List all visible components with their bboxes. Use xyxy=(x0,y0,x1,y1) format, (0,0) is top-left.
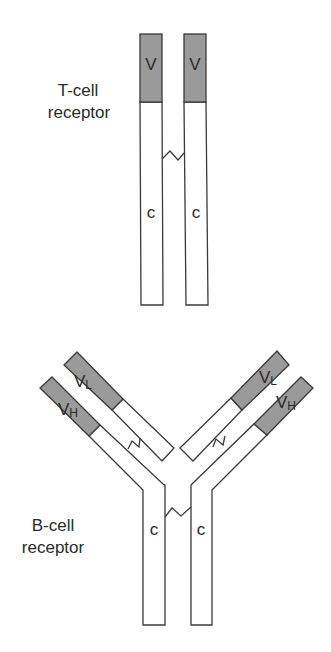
tcell-chain-left: V c xyxy=(140,34,163,305)
bcell-heavy-chain-right: VH c xyxy=(191,377,313,625)
constant-label: c xyxy=(150,520,159,539)
disulfide-bond-left xyxy=(128,438,140,449)
bcell-label-line2: receptor xyxy=(22,538,85,557)
bcell-label-line1: B-cell xyxy=(32,516,75,535)
tcell-label-line1: T-cell xyxy=(58,81,99,100)
disulfide-bond xyxy=(162,151,184,160)
disulfide-bond-stem xyxy=(165,507,191,517)
variable-label: V xyxy=(145,55,157,74)
variable-label: V xyxy=(189,55,201,74)
receptor-diagram: T-cell receptor V c V c B-cell receptor … xyxy=(0,0,331,652)
tcell-chain-right: V c xyxy=(184,34,208,305)
bcell-heavy-chain-left: VH c xyxy=(40,377,165,625)
tcell-label-line2: receptor xyxy=(48,103,111,122)
constant-label: c xyxy=(197,520,206,539)
constant-label: c xyxy=(192,203,201,222)
bcell-receptor: B-cell receptor VH c VL VH c VL xyxy=(22,351,313,625)
tcell-receptor: T-cell receptor V c V c xyxy=(48,34,208,305)
constant-label: c xyxy=(147,203,156,222)
